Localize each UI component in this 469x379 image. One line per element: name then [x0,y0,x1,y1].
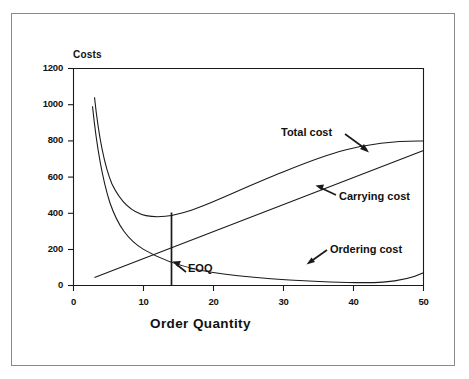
y-tick-label-400: 400 [29,207,63,218]
x-tick-label-20: 20 [201,296,227,307]
y-axis-title: Costs [73,49,102,60]
ordering-cost-label: Ordering cost [330,243,402,255]
y-tick-label-600: 600 [29,171,63,182]
y-axis-ticks [68,69,74,286]
total-cost-leader-arrow [345,134,369,153]
y-tick-label-1200: 1200 [29,62,63,73]
y-tick-label-1000: 1000 [29,98,63,109]
ordering-cost-leader-arrow [307,250,328,265]
carrying-cost-label: Carrying cost [339,190,410,202]
eoq-label: EOQ [188,262,212,274]
x-axis-title: Order Quantity [150,316,251,331]
y-tick-label-200: 200 [29,243,63,254]
y-tick-label-800: 800 [29,134,63,145]
carrying-cost-line [95,151,424,278]
x-axis-ticks [74,286,424,292]
x-tick-label-10: 10 [131,296,157,307]
eoq-chart-figure: Costs 1200 1000 800 600 400 200 0 0 10 2… [0,0,469,379]
total-cost-label: Total cost [281,126,332,138]
x-tick-label-30: 30 [271,296,297,307]
x-tick-label-50: 50 [411,296,437,307]
y-tick-label-0: 0 [29,279,63,290]
x-tick-label-0: 0 [61,296,87,307]
x-tick-label-40: 40 [341,296,367,307]
